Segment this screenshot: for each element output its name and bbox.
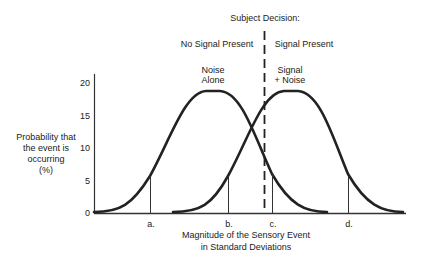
- signal-noise-curve: [173, 91, 403, 212]
- marker-c-label: c.: [269, 219, 276, 230]
- xlabel-line-2: in Standard Deviations: [201, 242, 292, 253]
- noise-alone-curve: [94, 91, 327, 212]
- ylabel-line-3: occurring: [27, 154, 64, 165]
- no-signal-region-label: No Signal Present: [181, 39, 254, 50]
- marker-b-label: b.: [225, 219, 233, 230]
- marker-d-label: d.: [345, 219, 353, 230]
- marker-a-label: a.: [147, 219, 155, 230]
- ytick-10: 10: [74, 143, 90, 154]
- ylabel-line-4: (%): [39, 165, 53, 176]
- signal-label-2: + Noise: [275, 75, 306, 86]
- ytick-20: 20: [74, 78, 90, 89]
- decision-title: Subject Decision:: [230, 13, 300, 24]
- ylabel-line-2: the event is: [23, 143, 69, 154]
- ytick-15: 15: [74, 111, 90, 122]
- ytick-5: 5: [74, 176, 90, 187]
- xlabel-line-1: Magnitude of the Sensory Event: [182, 230, 310, 241]
- signal-region-label: Signal Present: [275, 39, 334, 50]
- noise-label-2: Alone: [201, 75, 224, 86]
- ylabel-line-1: Probability that: [16, 132, 76, 143]
- ytick-0: 0: [74, 208, 90, 219]
